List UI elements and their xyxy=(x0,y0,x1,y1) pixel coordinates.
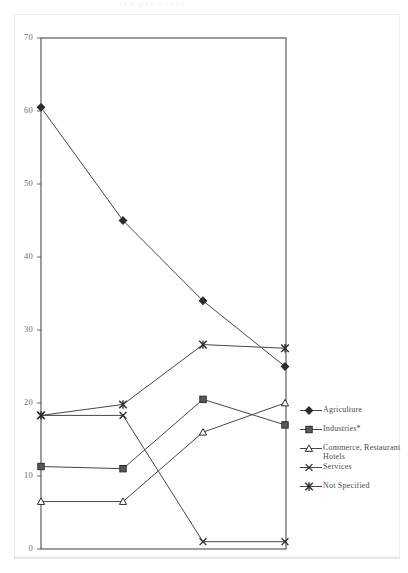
asterisk-marker-icon xyxy=(300,481,322,492)
data-point-marker xyxy=(200,396,206,402)
legend-label: Industries* xyxy=(323,424,361,433)
y-tick-label: 20 xyxy=(11,397,33,407)
legend-marker xyxy=(300,405,322,416)
series-agriculture xyxy=(37,104,288,370)
y-tick-label: 10 xyxy=(11,470,33,480)
data-point-marker xyxy=(120,466,126,472)
data-point-marker xyxy=(38,463,44,469)
legend-label: Services xyxy=(323,462,352,471)
legend-marker xyxy=(300,481,322,492)
legend-label: Agriculture xyxy=(323,405,362,414)
data-point-marker xyxy=(281,399,288,405)
y-axis xyxy=(37,38,41,549)
y-tick-label: 30 xyxy=(11,324,33,334)
y-tick-label: 60 xyxy=(11,105,33,115)
cross-x-marker-icon xyxy=(300,462,322,473)
legend-marker xyxy=(300,462,322,473)
legend-marker xyxy=(300,443,322,454)
series-services xyxy=(38,412,289,545)
filled-square-marker-icon xyxy=(300,424,322,435)
legend-marker xyxy=(300,424,322,435)
data-point-marker xyxy=(37,104,44,111)
open-triangle-marker-icon xyxy=(300,443,322,454)
series-line xyxy=(41,399,285,468)
y-tick-label: 50 xyxy=(11,178,33,188)
legend-label: Not Specified xyxy=(323,481,370,490)
data-point-marker xyxy=(282,422,288,428)
data-point-marker xyxy=(306,426,312,432)
series-not-specified xyxy=(37,340,289,419)
series-layer xyxy=(37,104,289,545)
y-tick-label: 0 xyxy=(11,543,33,553)
y-tick-label: 70 xyxy=(11,32,33,42)
y-tick-label: 40 xyxy=(11,251,33,261)
data-point-marker xyxy=(305,407,312,414)
legend-label: Commerce, Restaurant Hotels xyxy=(323,443,408,461)
series-line xyxy=(41,107,285,366)
data-point-marker xyxy=(199,429,206,435)
series-industries xyxy=(38,396,288,472)
filled-diamond-marker-icon xyxy=(300,405,322,416)
series-line xyxy=(41,345,285,416)
series-line xyxy=(41,403,285,502)
plot-frame xyxy=(41,38,286,549)
